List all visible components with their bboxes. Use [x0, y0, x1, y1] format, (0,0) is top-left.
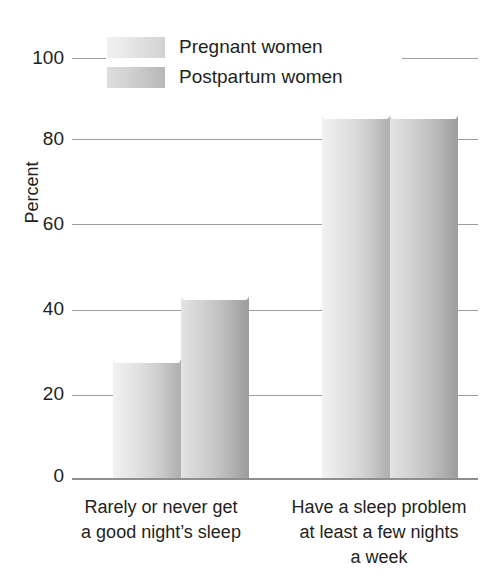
y-tick-80: 80 [43, 129, 64, 148]
y-axis-tick-labels: 100 80 60 40 20 0 [0, 58, 64, 478]
y-tick-100: 100 [32, 48, 64, 67]
y-tick-20: 20 [43, 384, 64, 403]
legend-swatch-postpartum-women [107, 67, 165, 88]
bar-body [322, 119, 390, 478]
plot-area [72, 58, 478, 478]
bar-postpartum-sleep-problem [390, 108, 458, 478]
category-label-2-line-1: Have a sleep problem [280, 495, 478, 520]
category-label-1-line-1: Rarely or never get [72, 495, 250, 520]
legend-label-pregnant-women: Pregnant women [179, 36, 323, 58]
bar-pregnant-sleep-problem [322, 108, 390, 478]
bar-body [181, 300, 249, 478]
category-label-1: Rarely or never get a good night’s sleep [72, 495, 250, 545]
y-tick-40: 40 [43, 299, 64, 318]
category-label-2-line-3: a week [280, 545, 478, 570]
axis-baseline [72, 478, 478, 480]
bar-body [390, 119, 458, 478]
legend-item-postpartum-women: Postpartum women [107, 64, 343, 90]
bar-postpartum-rarely [181, 289, 249, 478]
category-label-1-line-2: a good night’s sleep [72, 520, 250, 545]
bar-chart: Percent 100 80 60 40 20 0 [0, 0, 499, 580]
category-label-2: Have a sleep problem at least a few nigh… [280, 495, 478, 570]
category-label-2-line-2: at least a few nights [280, 520, 478, 545]
y-tick-60: 60 [43, 214, 64, 233]
gridline-100-right-segment [402, 58, 478, 59]
legend: Pregnant women Postpartum women [107, 34, 343, 94]
bar-body [113, 363, 181, 478]
gridline-100-left-segment [72, 58, 106, 59]
legend-swatch-pregnant-women [107, 37, 165, 58]
legend-label-postpartum-women: Postpartum women [179, 66, 343, 88]
y-tick-0: 0 [53, 466, 64, 485]
bar-pregnant-rarely [113, 352, 181, 478]
legend-item-pregnant-women: Pregnant women [107, 34, 343, 60]
